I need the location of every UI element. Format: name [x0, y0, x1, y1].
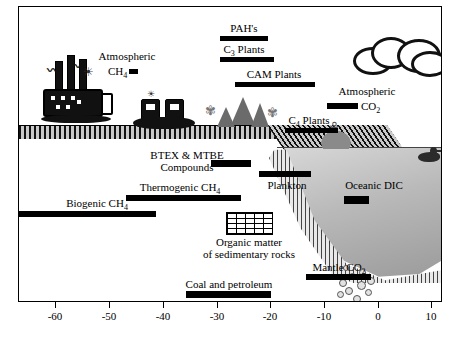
label-pahs: PAH's [230, 22, 257, 34]
bar-c4-plants [285, 128, 338, 133]
label-organic-line1: Organic matter [216, 236, 282, 248]
label-organic-line2: of sedimentary rocks [203, 248, 295, 260]
bar-c3-plants [220, 57, 274, 62]
x-tick-label: -30 [210, 310, 225, 322]
x-tick-label: 0 [375, 310, 381, 322]
bar-pahs [220, 36, 268, 41]
label-btex-line2: Compounds [160, 161, 213, 173]
label-oceanic-dic: Oceanic DIC [345, 179, 403, 191]
gas-station-icon [133, 95, 195, 129]
bar-thermogenic-ch4 [126, 195, 241, 201]
chart-plot-area: 〰 〰 ☀ ☀ ✾ ✾ ⚘ PAH's [18, 6, 442, 302]
sun-icon: ☀ [83, 65, 94, 80]
x-tick-label: -40 [156, 310, 171, 322]
bar-organic-matter-sedimentary-rocks [226, 212, 273, 235]
waterbird-icon [414, 147, 442, 163]
label-ch4: CH4 [108, 65, 127, 82]
x-axis: -60 -50 -40 -30 -20 -10 0 10 [18, 302, 442, 336]
bar-btex-mtbe [211, 160, 251, 167]
label-cam-plants: CAM Plants [247, 68, 302, 80]
x-tick-label: -50 [102, 310, 117, 322]
bar-atmospheric-ch4 [129, 69, 138, 74]
bar-atmospheric-co2 [327, 103, 358, 109]
sun-small-icon: ☀ [147, 89, 155, 99]
bar-cam-plants [235, 82, 315, 87]
label-plankton: Plankton [267, 179, 306, 191]
x-tick-label: -20 [263, 310, 278, 322]
label-atmospheric-co2-top: Atmospheric [339, 85, 396, 97]
bar-oceanic-dic [344, 196, 369, 204]
label-co2: CO2 [361, 100, 380, 117]
label-atmospheric-ch4-top: Atmospheric [99, 50, 156, 62]
bar-plankton [259, 171, 311, 177]
bar-biogenic-ch4 [19, 211, 156, 217]
factory-icon: 〰 〰 [41, 59, 111, 123]
x-tick-label: -10 [317, 310, 332, 322]
bar-mantle-co2 [306, 274, 371, 280]
x-tick-label: -60 [48, 310, 63, 322]
x-tick-label: 10 [426, 310, 437, 322]
bar-coal-petroleum [186, 291, 271, 298]
clouds-icon [349, 33, 442, 77]
label-coal-petroleum: Coal and petroleum [186, 278, 273, 290]
